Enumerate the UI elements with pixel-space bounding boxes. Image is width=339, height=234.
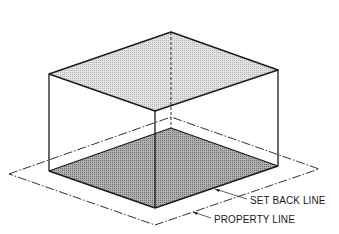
property-arrowhead xyxy=(193,212,198,215)
zoning-envelope-diagram: SET BACK LINE PROPERTY LINE xyxy=(0,0,339,234)
set-back-floor xyxy=(49,128,278,208)
set-back-arrowhead xyxy=(215,189,220,192)
set-back-line-label: SET BACK LINE xyxy=(250,195,326,206)
set-back-leader xyxy=(215,189,247,199)
envelope-top-face xyxy=(49,32,278,111)
property-line-label: PROPERTY LINE xyxy=(214,214,295,225)
